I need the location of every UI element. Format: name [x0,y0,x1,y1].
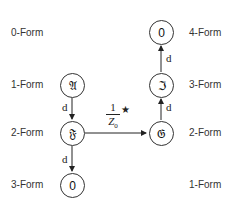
left-label-3-form: 3-Form [11,179,43,191]
hodge-denominator: Z0 [106,116,120,132]
right-label-4-form: 4-Form [189,27,221,39]
node-g-field: 𝔊 [149,121,174,146]
hodge-fraction: 1 Z0 [106,102,120,132]
d-label-a-to-f: d [62,101,68,113]
right-label-2-form: 2-Form [189,127,221,139]
left-label-0-form: 0-Form [11,27,43,39]
d-label-f-to-zero: d [62,153,68,165]
right-label-3-form: 3-Form [189,79,221,91]
hodge-star-icon: ★ [121,104,130,115]
left-label-1-form: 1-Form [11,79,43,91]
node-f-field: 𝔉 [60,121,85,146]
node-left-zero: 0 [60,173,85,198]
left-label-2-form: 2-Form [11,127,43,139]
right-label-1-form: 1-Form [189,179,221,191]
node-i-current: ℑ [149,73,174,98]
hodge-numerator: 1 [106,102,120,113]
d-label-i-to-zero: d [166,52,172,64]
denominator-subscript: 0 [114,122,118,130]
node-a-potential: 𝔄 [60,73,85,98]
d-label-g-to-i: d [166,101,172,113]
node-right-zero: 0 [149,20,174,45]
